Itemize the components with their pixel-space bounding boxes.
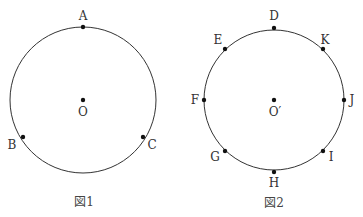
- point-k: [321, 47, 325, 51]
- point-c: [141, 135, 145, 139]
- point-a: [81, 25, 85, 29]
- label-h: H: [269, 176, 279, 190]
- label-j: J: [348, 93, 355, 107]
- figure-1: O A B C 図1: [8, 9, 157, 209]
- center-point-o-prime: [272, 98, 276, 102]
- label-b: B: [8, 138, 17, 152]
- point-e: [223, 47, 227, 51]
- circle-diagrams: O A B C 図1 O′ D K J I H G F E 図2: [0, 0, 363, 217]
- center-point-o: [81, 98, 85, 102]
- point-b: [21, 135, 25, 139]
- label-o: O: [78, 105, 88, 119]
- point-d: [272, 26, 276, 30]
- caption-figure-2: 図2: [264, 196, 284, 210]
- label-d: D: [269, 9, 279, 23]
- label-i: I: [329, 150, 334, 164]
- label-f: F: [191, 93, 199, 107]
- label-a: A: [78, 9, 88, 23]
- caption-figure-1: 図1: [74, 195, 94, 209]
- label-c: C: [147, 138, 156, 152]
- point-h: [272, 170, 276, 174]
- label-g: G: [210, 150, 220, 164]
- point-i: [321, 149, 325, 153]
- point-g: [223, 149, 227, 153]
- point-f: [202, 98, 206, 102]
- label-e: E: [214, 33, 223, 47]
- point-j: [342, 98, 346, 102]
- figure-2: O′ D K J I H G F E 図2: [191, 9, 355, 210]
- label-o-prime: O′: [269, 105, 282, 119]
- label-k: K: [321, 33, 331, 47]
